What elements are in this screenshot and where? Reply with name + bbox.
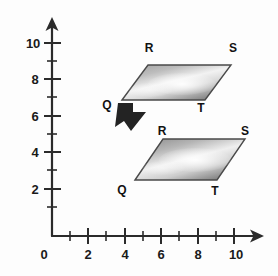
- coordinate-plane-figure: 10 8 6 4 2 0 2 4 6 8 10 Q R S T Q R S T: [0, 0, 278, 276]
- y-tick-label-8: 8: [32, 72, 39, 87]
- vertex-label-upper-r: R: [145, 41, 154, 55]
- vertex-label-lower-s: S: [241, 124, 249, 138]
- vertex-label-upper-t: T: [197, 101, 204, 115]
- x-tick-label-8: 8: [195, 247, 202, 262]
- vertex-label-lower-q: Q: [117, 183, 126, 197]
- parallelogram-qrst-image: [135, 139, 245, 180]
- vertex-label-lower-r: R: [158, 124, 167, 138]
- x-tick-label-10: 10: [229, 247, 243, 262]
- y-tick-label-6: 6: [32, 109, 39, 124]
- y-tick-label-4: 4: [32, 145, 39, 160]
- x-tick-label-4: 4: [122, 247, 129, 262]
- vertex-label-lower-t: T: [211, 184, 218, 198]
- parallelogram-qrst-preimage: [122, 65, 231, 100]
- y-tick-label-10: 10: [26, 36, 40, 51]
- x-axis: [52, 228, 264, 244]
- x-tick-label-6: 6: [158, 247, 165, 262]
- x-tick-label-2: 2: [85, 247, 92, 262]
- y-tick-label-2: 2: [32, 182, 39, 197]
- vertex-label-upper-s: S: [229, 41, 237, 55]
- vertex-label-upper-q: Q: [102, 98, 111, 112]
- translation-arrow: [115, 103, 146, 131]
- origin-label-0: 0: [41, 247, 48, 262]
- y-axis: [44, 17, 61, 236]
